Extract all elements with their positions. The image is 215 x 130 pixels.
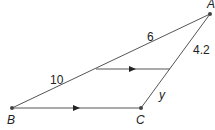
label-B: B — [7, 113, 15, 127]
label-C: C — [136, 113, 145, 127]
point-C — [139, 106, 143, 110]
similar-triangles-diagram: A B C 6 10 4.2 y — [0, 0, 215, 130]
point-A — [208, 12, 212, 16]
side-AB — [12, 14, 210, 108]
measure-y: y — [158, 88, 166, 102]
measure-4-2: 4.2 — [193, 43, 210, 57]
side-AC — [141, 14, 210, 108]
triangle-sides — [12, 14, 210, 108]
point-B — [10, 106, 14, 110]
label-A: A — [206, 0, 215, 11]
measure-6: 6 — [147, 30, 154, 44]
parallel-arrow-icon — [73, 105, 80, 111]
parallel-arrow-icon — [129, 66, 136, 72]
measure-10: 10 — [50, 73, 64, 87]
